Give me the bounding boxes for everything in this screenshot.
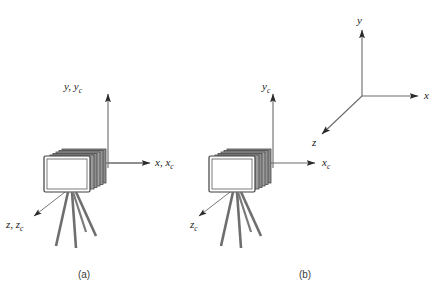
world-frame xyxy=(322,30,418,134)
panel-a-group: y, yc x, xc z, zc (a) xyxy=(5,80,174,280)
camera-film-plane xyxy=(212,159,252,189)
panel-a-camera xyxy=(44,149,106,248)
panel-a-x-label: x, xc xyxy=(154,156,174,171)
panel-b-caption: (b) xyxy=(299,269,311,280)
camera-film-plane xyxy=(47,159,87,189)
panel-a-y-label: y, yc xyxy=(63,80,83,95)
world-z-label: z xyxy=(311,136,317,148)
camera-tripod xyxy=(221,192,261,248)
camera-tripod xyxy=(56,192,96,248)
diagram-svg: y, yc x, xc z, zc (a) xyxy=(0,0,438,291)
panel-a-z-label: z, zc xyxy=(5,218,24,233)
panel-b-yc-label: yc xyxy=(261,80,271,95)
panel-b-group: yc xc zc y x z (b) xyxy=(189,14,429,280)
world-x-label: x xyxy=(423,89,429,101)
panel-b-xc-label: xc xyxy=(321,156,331,171)
world-y-label: y xyxy=(356,14,362,26)
panel-a-caption: (a) xyxy=(78,269,90,280)
panel-b-zc-label: zc xyxy=(189,218,198,233)
panel-b-camera xyxy=(209,149,271,248)
world-z-axis-line xyxy=(322,96,362,134)
figure-container: y, yc x, xc z, zc (a) xyxy=(0,0,438,291)
